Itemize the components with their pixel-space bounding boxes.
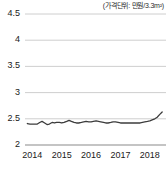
x-axis-tick-labels: 20142015201620172018 bbox=[0, 148, 167, 166]
x-tick-label: 2014 bbox=[22, 150, 42, 160]
gridlines bbox=[25, 14, 166, 145]
x-tick-label: 2017 bbox=[110, 150, 130, 160]
x-tick-label: 2015 bbox=[52, 150, 72, 160]
price-trend-chart: (가격단위: 만원/3.3m²) 22.533.544.5 2014201520… bbox=[0, 0, 167, 179]
price-line-series bbox=[27, 112, 162, 125]
x-tick-label: 2018 bbox=[140, 150, 160, 160]
x-tick-label: 2016 bbox=[81, 150, 101, 160]
